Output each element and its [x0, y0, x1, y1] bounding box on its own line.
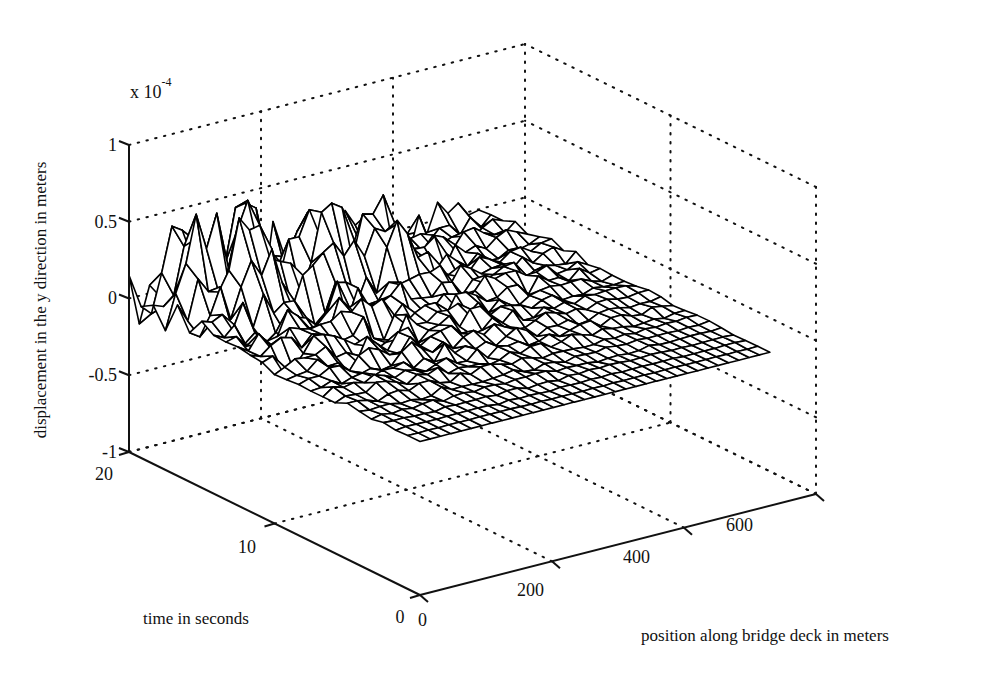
position-tick-label: 600	[726, 515, 753, 535]
z-tick	[119, 218, 129, 222]
z-tick	[119, 295, 129, 299]
time-tick	[119, 452, 129, 455]
z-tick	[119, 448, 129, 452]
z-tick-label: 0.5	[95, 212, 118, 232]
z-tick-label: 0	[108, 288, 117, 308]
time-tick	[410, 595, 420, 598]
time-axis-title: time in seconds	[143, 609, 249, 628]
position-tick-label: 400	[623, 547, 650, 567]
position-tick	[816, 494, 824, 501]
time-tick-label: 10	[238, 537, 256, 557]
z-axis-title: displacement in the y direction in meter…	[31, 162, 50, 439]
z-tick	[119, 371, 129, 375]
z-scale-multiplier: x 10-4	[130, 75, 172, 102]
position-tick	[684, 528, 692, 535]
time-tick	[265, 524, 275, 527]
time-tick-label: 20	[95, 464, 113, 484]
z-tick-label: -0.5	[89, 365, 118, 385]
position-axis-title: position along bridge deck in meters	[641, 626, 889, 645]
surface-mesh	[129, 195, 770, 441]
position-tick	[420, 595, 428, 602]
grid-line	[275, 423, 671, 524]
position-axis-line	[420, 494, 816, 595]
time-tick-label: 0	[396, 607, 405, 627]
surface-plot: 1 0.5 0 -0.5 -1 x 10-4 20 10 0 0 200 400…	[0, 0, 987, 689]
grid-line	[129, 44, 525, 145]
z-tick	[119, 141, 129, 145]
position-tick	[552, 561, 560, 568]
z-tick-label: -1	[102, 442, 117, 462]
position-tick-label: 200	[517, 580, 544, 600]
z-tick-label: 1	[108, 135, 117, 155]
position-tick-label: 0	[418, 610, 427, 630]
